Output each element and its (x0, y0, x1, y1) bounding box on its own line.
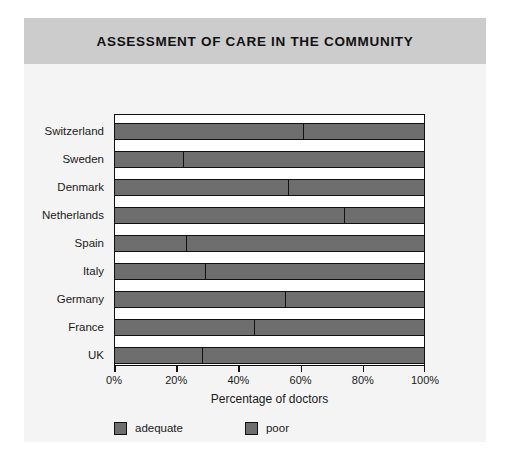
x-axis-tick (176, 366, 178, 372)
bar-segment-poor (285, 292, 424, 307)
bar-segment-poor (202, 348, 424, 363)
bar-segment-poor (183, 152, 424, 167)
x-axis-tick-label: 60% (290, 374, 312, 386)
y-axis-tick-label: Spain (18, 229, 104, 257)
stacked-bar (114, 291, 425, 308)
bar-segment-adequate (115, 236, 186, 251)
x-axis-tick-label: 80% (352, 374, 374, 386)
bar-segment-poor (205, 264, 424, 279)
bar-row: Germany (114, 285, 425, 313)
x-axis-tick (114, 366, 116, 372)
y-axis-tick-label: Switzerland (18, 117, 104, 145)
chart-figure: ASSESSMENT OF CARE IN THE COMMUNITY Swit… (24, 18, 486, 442)
legend-item: poor (245, 422, 289, 435)
stacked-bar (114, 263, 425, 280)
chart-legend: adequatepoor (114, 416, 425, 440)
bar-segment-poor (288, 180, 424, 195)
x-axis-tick (238, 366, 240, 372)
bar-segment-adequate (115, 348, 202, 363)
y-axis-tick-label: Netherlands (18, 201, 104, 229)
x-axis-tick (301, 366, 303, 372)
legend-swatch (245, 422, 258, 435)
y-axis-tick-label: UK (18, 341, 104, 369)
bar-row: Spain (114, 229, 425, 257)
y-axis-tick-label: Denmark (18, 173, 104, 201)
stacked-bar (114, 151, 425, 168)
x-axis-tick-label: 100% (411, 374, 439, 386)
x-axis-tick-label: 40% (227, 374, 249, 386)
stacked-bar (114, 347, 425, 364)
stacked-bar (114, 207, 425, 224)
bar-row: Sweden (114, 145, 425, 173)
bar-segment-adequate (115, 208, 344, 223)
page-title: ASSESSMENT OF CARE IN THE COMMUNITY (96, 34, 413, 49)
stacked-bar (114, 123, 425, 140)
y-axis-tick-label: Sweden (18, 145, 104, 173)
bar-segment-poor (186, 236, 424, 251)
legend-item: adequate (114, 422, 183, 435)
x-axis-label: Percentage of doctors (114, 392, 425, 406)
stacked-bar (114, 179, 425, 196)
legend-label: adequate (135, 422, 183, 434)
plot-area: SwitzerlandSwedenDenmarkNetherlandsSpain… (114, 114, 425, 366)
y-axis-tick-label: Germany (18, 285, 104, 313)
bar-segment-adequate (115, 152, 183, 167)
bar-segment-adequate (115, 292, 285, 307)
bar-segment-poor (344, 208, 424, 223)
bar-segment-poor (303, 124, 424, 139)
bar-row: France (114, 313, 425, 341)
x-axis-tick-label: 20% (165, 374, 187, 386)
legend-swatch (114, 422, 127, 435)
bar-row: UK (114, 341, 425, 369)
bar-row: Switzerland (114, 117, 425, 145)
y-axis-tick-label: France (18, 313, 104, 341)
plot-area-wrapper: SwitzerlandSwedenDenmarkNetherlandsSpain… (24, 64, 486, 442)
bar-row: Denmark (114, 173, 425, 201)
y-axis-tick-label: Italy (18, 257, 104, 285)
bar-segment-poor (254, 320, 424, 335)
x-axis-tick (424, 366, 426, 372)
stacked-bar (114, 319, 425, 336)
x-axis: 0%20%40%60%80%100% Percentage of doctors (114, 366, 425, 406)
chart-title-band: ASSESSMENT OF CARE IN THE COMMUNITY (24, 18, 486, 64)
bar-segment-adequate (115, 320, 254, 335)
bar-segment-adequate (115, 124, 303, 139)
x-axis-tick (363, 366, 365, 372)
bar-row: Italy (114, 257, 425, 285)
bar-segment-adequate (115, 264, 205, 279)
bar-segment-adequate (115, 180, 288, 195)
legend-label: poor (266, 422, 289, 434)
x-axis-tick-label: 0% (106, 374, 122, 386)
bar-row: Netherlands (114, 201, 425, 229)
stacked-bar (114, 235, 425, 252)
